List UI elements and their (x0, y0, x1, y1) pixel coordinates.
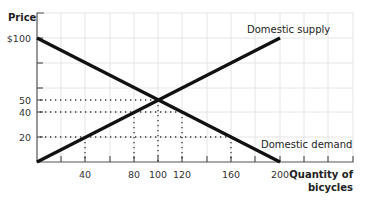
demand-label: Domestic demand (261, 139, 352, 150)
y-axis-title: Price (8, 12, 37, 23)
y-tick-40: 40 (19, 107, 31, 118)
x-tick-80: 80 (128, 169, 140, 180)
dotted-guides (40, 100, 231, 162)
x-tick-120: 120 (173, 169, 191, 180)
x-tick-160: 160 (222, 169, 240, 180)
x-tick-40: 40 (79, 169, 91, 180)
supply-demand-chart: Price $100 50 40 20 40 80 100 120 160 20… (0, 0, 367, 203)
x-tick-100: 100 (149, 169, 167, 180)
x-axis-title-line2: bicycles (308, 182, 353, 193)
x-axis-title-line1: Quantity of (289, 169, 353, 180)
y-tick-20: 20 (19, 132, 31, 143)
y-tick-100: $100 (7, 33, 31, 44)
y-tick-50: 50 (19, 95, 31, 106)
supply-label: Domestic supply (247, 24, 330, 35)
x-tick-200: 200 (271, 169, 289, 180)
